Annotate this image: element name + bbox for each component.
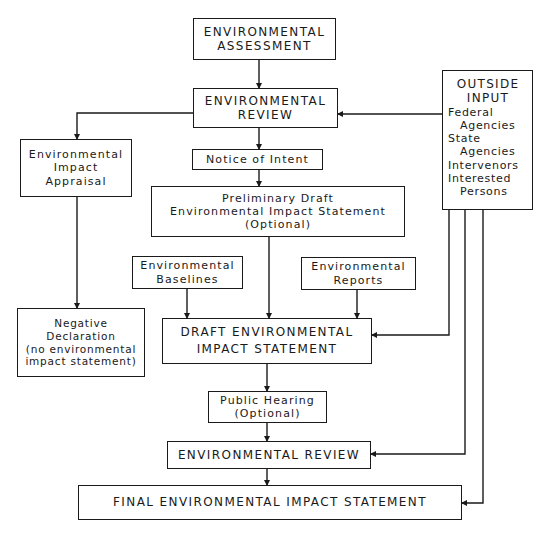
node-environmental-reports: Environmental Reports (301, 257, 416, 290)
node-label-line: Environmental (29, 148, 123, 161)
outside-input-item: Interested (448, 172, 511, 185)
node-label-line: Appraisal (45, 175, 106, 188)
node-label-line: Preliminary Draft (222, 192, 334, 205)
node-label-line: Reports (334, 274, 384, 287)
node-label-line: (Optional) (245, 218, 311, 231)
node-label-line: Declaration (46, 330, 115, 343)
node-label-line: impact statement) (25, 355, 136, 368)
node-label-line: (Optional) (234, 407, 300, 420)
node-draft-eis: DRAFT ENVIRONMENTAL IMPACT STATEMENT (162, 318, 372, 364)
node-environmental-baselines: Environmental Baselines (132, 256, 243, 289)
node-label-line: Public Hearing (220, 394, 315, 407)
node-label-line: ENVIRONMENTAL (204, 25, 325, 39)
node-label-line: ASSESSMENT (217, 39, 312, 53)
outside-input-item: Federal (448, 106, 493, 119)
outside-input-item: Intervenors (448, 159, 519, 172)
node-label-line: Notice of Intent (206, 153, 309, 166)
outside-input-heading: INPUT (448, 91, 528, 105)
outside-input-item: Persons (448, 185, 508, 198)
node-label-line: FINAL ENVIRONMENTAL IMPACT STATEMENT (113, 495, 427, 509)
outside-input-item: Agencies (448, 119, 515, 132)
node-preliminary-draft-eis: Preliminary Draft Environmental Impact S… (151, 186, 405, 237)
node-environmental-review-1: ENVIRONMENTAL REVIEW (193, 88, 338, 128)
node-environmental-assessment: ENVIRONMENTAL ASSESSMENT (193, 18, 336, 60)
node-label-line: DRAFT ENVIRONMENTAL (180, 324, 353, 341)
node-label-line: Baselines (156, 273, 218, 286)
node-label-line: ENVIRONMENTAL (205, 94, 326, 108)
node-label-line: (no environmental (26, 343, 136, 356)
node-environmental-review-2: ENVIRONMENTAL REVIEW (167, 441, 371, 469)
node-outside-input: OUTSIDE INPUT Federal Agencies State Age… (442, 70, 533, 210)
node-label-line: Environmental (140, 259, 234, 272)
node-label-line: Impact (54, 161, 99, 174)
node-label-line: Environmental Impact Statement (170, 205, 386, 218)
node-label-line: Negative (54, 317, 108, 330)
node-environmental-impact-appraisal: Environmental Impact Appraisal (20, 139, 132, 197)
node-label-line: IMPACT STATEMENT (197, 341, 338, 358)
node-public-hearing: Public Hearing (Optional) (208, 391, 327, 423)
node-label-line: ENVIRONMENTAL REVIEW (178, 448, 360, 462)
node-label-line: REVIEW (238, 108, 294, 122)
node-negative-declaration: Negative Declaration (no environmental i… (17, 308, 145, 377)
node-final-eis: FINAL ENVIRONMENTAL IMPACT STATEMENT (78, 485, 462, 520)
node-notice-of-intent: Notice of Intent (192, 149, 323, 170)
outside-input-heading: OUTSIDE (448, 77, 528, 91)
node-label-line: Environmental (311, 260, 405, 273)
outside-input-item: Agencies (448, 145, 515, 158)
outside-input-item: State (448, 132, 481, 145)
